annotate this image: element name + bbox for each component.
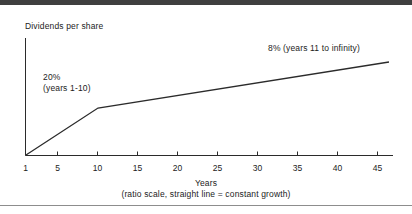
x-tick-label-20: 20 (173, 163, 182, 173)
annotation-20-percent-years: (years 1-10) (43, 83, 91, 94)
x-tick-label-1: 1 (23, 163, 28, 173)
x-tick-label-30: 30 (253, 163, 262, 173)
x-axis-note: (ratio scale, straight line = constant g… (0, 189, 412, 200)
x-tick-label-25: 25 (213, 163, 222, 173)
x-axis-title: Years (0, 178, 412, 189)
x-axis-ticks (26, 152, 378, 156)
x-tick-label-15: 15 (133, 163, 142, 173)
x-tick-label-5: 5 (55, 163, 60, 173)
annotation-20-percent-rate: 20% (43, 72, 60, 82)
figure-page: Dividends per share 20% (years 1-10) 8% … (0, 0, 412, 214)
dividend-growth-chart: Dividends per share 20% (years 1-10) 8% … (0, 5, 412, 205)
x-tick-label-45: 45 (373, 163, 382, 173)
annotation-20-percent: 20% (years 1-10) (43, 72, 91, 93)
annotation-8-percent: 8% (years 11 to infinity) (268, 43, 360, 54)
chart-plot-area (0, 5, 412, 205)
x-tick-label-10: 10 (93, 163, 102, 173)
x-tick-label-35: 35 (293, 163, 302, 173)
y-axis-title: Dividends per share (25, 21, 103, 32)
x-tick-label-40: 40 (333, 163, 342, 173)
page-bottom-rule (0, 205, 412, 206)
